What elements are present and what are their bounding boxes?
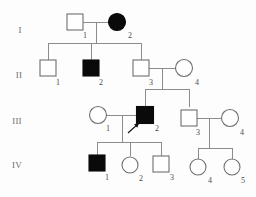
generation-labels: IIIIIIIV [12, 25, 22, 170]
individual-label-iv-4: 4 [208, 176, 212, 185]
individual-label-i-1: 1 [83, 31, 87, 40]
individual-label-iii-4: 4 [240, 128, 244, 137]
individual-iv-4-unaffected-female [190, 159, 206, 175]
individual-iv-1-affected-male [89, 155, 105, 171]
individual-i-1-unaffected-male [67, 14, 83, 30]
proband-arrow [128, 123, 139, 133]
individual-ii-2-affected-male [83, 60, 99, 76]
individual-label-iv-1: 1 [105, 173, 109, 182]
individual-iv-5-unaffected-female [224, 159, 240, 175]
individual-label-ii-4: 4 [195, 78, 199, 87]
individual-iii-1-unaffected-female [90, 107, 107, 124]
connection-lines-layer [48, 22, 232, 159]
individual-label-iv-5: 5 [241, 176, 245, 185]
individual-label-i-2: 2 [128, 31, 132, 40]
pedigree-chart: 121234123412345 IIIIIIIV [0, 0, 256, 197]
individual-ii-1-unaffected-male [40, 60, 56, 76]
individual-ii-4-unaffected-female [176, 60, 193, 77]
individual-label-iii-2: 2 [155, 124, 159, 133]
individual-iii-3-unaffected-male [181, 110, 197, 126]
individual-iii-4-unaffected-female [222, 110, 239, 127]
generation-label-4: IV [12, 160, 22, 170]
individual-label-iv-3: 3 [170, 173, 174, 182]
generation-label-2: II [16, 70, 22, 80]
individual-iv-2-unaffected-female [122, 157, 138, 173]
individual-label-ii-3: 3 [149, 78, 153, 87]
generation-label-1: I [18, 25, 21, 35]
individual-iv-3-unaffected-male [153, 156, 169, 172]
individual-iii-2-affected-male [137, 107, 154, 124]
individual-ii-3-unaffected-male [133, 60, 149, 76]
individual-label-ii-1: 1 [56, 78, 60, 87]
individual-label-iv-2: 2 [139, 174, 143, 183]
pedigree-diagram: 121234123412345 IIIIIIIV [0, 0, 256, 197]
generation-label-3: III [12, 116, 22, 126]
individual-label-iii-1: 1 [106, 124, 110, 133]
individual-i-2-affected-female [109, 14, 126, 31]
individual-label-iii-3: 3 [196, 128, 200, 137]
individual-label-ii-2: 2 [99, 78, 103, 87]
individual-symbols-layer [40, 14, 240, 176]
